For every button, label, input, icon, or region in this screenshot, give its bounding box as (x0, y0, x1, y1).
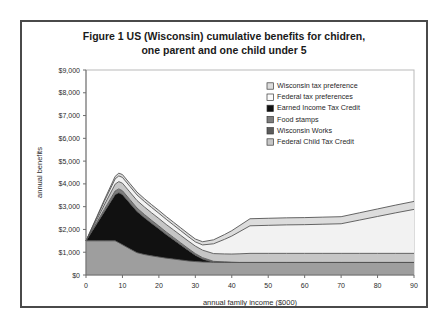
x-tick-label: 0 (84, 282, 88, 289)
y-axis-title: annual benefits (35, 147, 44, 198)
legend-label: Wisconsin Works (277, 126, 332, 135)
y-tick-label: $5,000 (59, 158, 81, 165)
y-tick-label: $6,000 (59, 135, 81, 142)
y-tick-label: $8,000 (59, 89, 81, 96)
figure-border: Figure 1 US (Wisconsin) cumulative benef… (20, 20, 428, 308)
legend-swatch (267, 128, 273, 134)
x-tick-label: 20 (155, 282, 163, 289)
legend-label: Food stamps (277, 115, 319, 124)
y-tick-label: $3,000 (59, 203, 81, 210)
x-axis-title: annual family income ($000) (203, 298, 298, 306)
legend-label: Wisconsin tax preference (277, 81, 358, 90)
x-tick-label: 10 (119, 282, 127, 289)
legend-label: Earned Income Tax Credit (277, 103, 360, 112)
figure-container: Figure 1 US (Wisconsin) cumulative benef… (0, 0, 443, 326)
x-tick-label: 80 (374, 282, 382, 289)
x-tick-label: 60 (301, 282, 309, 289)
legend-label: Federal tax preferences (277, 92, 353, 101)
x-tick-label: 50 (264, 282, 272, 289)
x-axis-ticks: 0102030405060708090 (84, 275, 418, 289)
y-axis-ticks: $0$1,000$2,000$3,000$4,000$5,000$6,000$7… (59, 67, 86, 279)
x-tick-label: 40 (228, 282, 236, 289)
legend-swatch (267, 116, 273, 122)
plot-area: 0102030405060708090 $0$1,000$2,000$3,000… (59, 67, 418, 290)
legend-swatch (267, 94, 273, 100)
y-tick-label: $0 (72, 272, 80, 279)
y-tick-label: $7,000 (59, 112, 81, 119)
legend-swatch (267, 139, 273, 145)
x-tick-label: 90 (410, 282, 418, 289)
stacked-area-chart: Figure 1 US (Wisconsin) cumulative benef… (22, 22, 426, 306)
legend-label: Federal Child Tax Credit (277, 137, 354, 146)
y-tick-label: $4,000 (59, 180, 81, 187)
y-tick-label: $1,000 (59, 249, 81, 256)
x-tick-label: 70 (337, 282, 345, 289)
x-tick-label: 30 (191, 282, 199, 289)
y-tick-label: $9,000 (59, 67, 81, 74)
y-tick-label: $2,000 (59, 226, 81, 233)
legend-swatch (267, 83, 273, 89)
legend-swatch (267, 105, 273, 111)
chart-title-line-2: one parent and one child under 5 (141, 44, 306, 56)
chart-title-line-1: Figure 1 US (Wisconsin) cumulative benef… (83, 30, 365, 42)
